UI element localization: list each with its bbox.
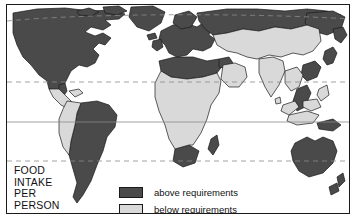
legend-swatch-below bbox=[119, 204, 143, 214]
map-title-line-4: PERSON bbox=[14, 200, 60, 212]
legend-label-below: below requirements bbox=[154, 204, 237, 214]
map-title-line-1: FOOD bbox=[14, 165, 60, 177]
legend-swatch-above bbox=[119, 187, 143, 198]
food-intake-map-figure: FOOD INTAKE PER PERSON above requirement… bbox=[0, 0, 355, 223]
map-title-line-3: PER bbox=[14, 188, 60, 200]
legend-item-below: below requirements bbox=[119, 203, 238, 214]
map-legend: above requirements below requirements bbox=[119, 186, 238, 214]
map-frame: FOOD INTAKE PER PERSON above requirement… bbox=[6, 4, 350, 214]
legend-label-above: above requirements bbox=[154, 187, 238, 198]
map-title: FOOD INTAKE PER PERSON bbox=[14, 165, 60, 211]
legend-item-above: above requirements bbox=[119, 186, 238, 199]
